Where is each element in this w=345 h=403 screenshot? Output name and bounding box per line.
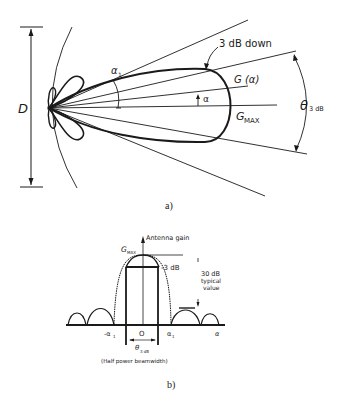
arrow-up-icon — [29, 29, 34, 36]
svg-text:1: 1 — [172, 334, 175, 339]
x-axis-label: α — [215, 330, 220, 338]
gain-max-label: G MAX — [121, 245, 136, 255]
gain-at-angle-label: G (α) — [234, 74, 259, 85]
angle-label: α — [203, 94, 209, 104]
figure-b-caption: b) — [167, 379, 175, 391]
figure-a-caption: a) — [165, 200, 173, 212]
arrow-down-icon — [29, 178, 34, 185]
side-lobe-near-left — [87, 309, 114, 326]
beamwidth-label: θ 3 dB — [300, 98, 324, 113]
arrow-down-icon — [197, 302, 200, 307]
svg-text:θ: θ — [300, 98, 308, 113]
arrow-right-icon — [151, 339, 156, 342]
side-lobe-lower — [49, 108, 84, 140]
figure-b — [66, 236, 225, 345]
origin-label: O — [139, 330, 145, 338]
svg-text:1: 1 — [113, 334, 116, 339]
half-power-line-lower — [49, 108, 307, 154]
figure-a-labels: D α 1 3 dB down G (α) α G MAX θ 3 dB a) — [18, 38, 324, 212]
svg-text:MAX: MAX — [244, 117, 260, 125]
first-null-angle-sub: 1 — [118, 71, 122, 78]
y-axis-label: Antenna gain — [146, 234, 189, 242]
boresight-line — [49, 105, 277, 108]
arrow-up-icon — [293, 54, 298, 61]
svg-text:value: value — [203, 284, 220, 291]
svg-text:3 dB: 3 dB — [309, 105, 324, 113]
arrow-left-icon — [129, 339, 134, 342]
arrow-up-icon — [196, 94, 200, 99]
neg-first-null-label: -α 1 — [104, 330, 116, 339]
side-lobe-far-right — [201, 314, 219, 325]
antenna-pattern-diagram: D α 1 3 dB down G (α) α G MAX θ 3 dB a) — [0, 0, 345, 403]
main-lobe — [49, 69, 231, 142]
gain-alpha-line — [49, 86, 248, 108]
svg-text:MAX: MAX — [127, 250, 136, 255]
beamwidth-note: (Half power beamwidth) — [101, 358, 168, 365]
first-null-line-upper — [49, 20, 248, 108]
beamwidth-label: θ 3 dB — [135, 344, 149, 354]
svg-text:3 dB: 3 dB — [140, 349, 149, 354]
first-null-line-lower — [49, 108, 265, 196]
side-lobe-far-left — [68, 313, 86, 325]
svg-text:-α: -α — [104, 330, 111, 338]
gain-max-label: G MAX — [236, 110, 260, 125]
pos-first-null-label: α 1 — [167, 330, 175, 339]
side-lobe-near-right — [171, 310, 200, 325]
minus-3db-label: -3 dB — [161, 264, 180, 272]
arrow-up-icon — [141, 236, 145, 243]
alpha1-arc — [113, 80, 119, 108]
sidelobe-note: 30 dB typical value — [201, 270, 221, 291]
main-lobe-top — [126, 255, 159, 267]
arrow-down-icon — [294, 145, 299, 152]
svg-text:α: α — [167, 330, 171, 338]
three-db-down-label: 3 dB down — [219, 38, 272, 49]
diameter-label: D — [18, 101, 28, 116]
first-null-angle-label: α — [111, 65, 118, 76]
figure-b-labels: Antenna gain G MAX -3 dB 30 dB typical v… — [101, 234, 221, 391]
